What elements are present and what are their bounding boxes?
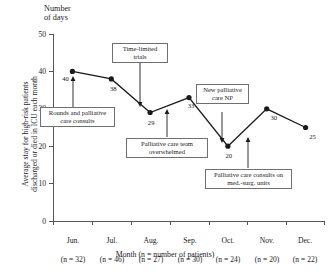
- line-chart: Number of days Average stay for high-ris…: [0, 0, 330, 274]
- x-axis-title: Month (n = number of patients): [0, 250, 330, 259]
- annotation-rounds-palliative-consults: Rounds and palliative care consults: [40, 107, 115, 127]
- annotation-time-limited-trials: Time-limited trials: [112, 43, 168, 63]
- annotation-palliative-consults-medsurg: Palliative care consults on med.-surg. u…: [205, 169, 292, 189]
- annotation-connectors: [0, 0, 330, 274]
- annotation-palliative-team-overwhelmed: Palliative care team overwhelmed: [126, 138, 208, 158]
- annotation-new-palliative-np: New palliative care NP: [196, 84, 249, 104]
